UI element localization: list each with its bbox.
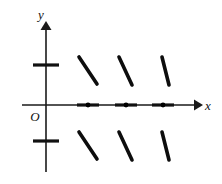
slope-segment-upper-left — [79, 57, 97, 84]
x-axis-tick — [115, 103, 137, 108]
slope-segment-upper-middle — [119, 57, 132, 85]
x-tick-dot-1 — [86, 103, 91, 108]
y-axis-up-arrow-icon — [41, 21, 52, 30]
y-axis-label: y — [36, 7, 44, 22]
x-axis-ticks-group — [77, 103, 174, 108]
slope-segment-lower-right — [162, 132, 169, 160]
x-axis-tick — [152, 103, 174, 108]
slope-segment-lower-middle — [119, 132, 132, 160]
slope-field-figure: y x O — [0, 0, 222, 184]
slope-field-canvas: y x O — [0, 0, 222, 184]
x-tick-dot-3 — [161, 103, 166, 108]
origin-label: O — [30, 109, 40, 124]
x-tick-dot-2 — [124, 103, 129, 108]
x-axis-label: x — [204, 98, 211, 113]
slope-segment-upper-right — [162, 57, 169, 85]
slope-segments-group — [79, 57, 169, 160]
x-axis-tick — [77, 103, 99, 108]
axes-group — [22, 21, 203, 172]
slope-segment-lower-left — [79, 132, 97, 159]
x-axis-right-arrow-icon — [194, 100, 203, 111]
